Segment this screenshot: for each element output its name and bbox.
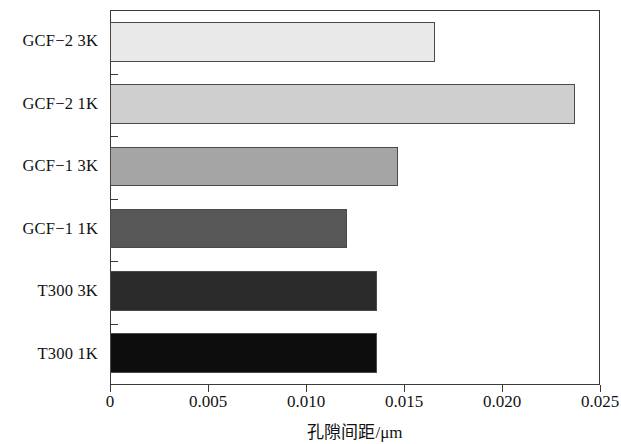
x-tick-mark <box>208 385 209 392</box>
bar-slot <box>111 135 599 197</box>
bar <box>110 22 435 62</box>
category-label: GCF−1 3K <box>0 135 105 198</box>
y-tick-mark <box>111 74 118 75</box>
bar-chart: GCF−2 3K GCF−2 1K GCF−1 3K GCF−1 1K T300… <box>0 0 621 444</box>
x-tick-mark <box>404 385 405 392</box>
y-tick-mark <box>111 199 118 200</box>
plot-area <box>110 10 600 385</box>
category-label: T300 1K <box>0 323 105 386</box>
x-tick-label: 0.020 <box>483 392 521 412</box>
category-axis-labels: GCF−2 3K GCF−2 1K GCF−1 3K GCF−1 1K T300… <box>0 10 105 385</box>
x-tick-label: 0.010 <box>287 392 325 412</box>
bar <box>110 84 575 124</box>
x-tick-mark <box>502 385 503 392</box>
x-tick-label: 0.015 <box>385 392 423 412</box>
y-tick-mark <box>111 261 118 262</box>
x-tick-labels: 00.0050.0100.0150.0200.025 <box>0 392 621 418</box>
y-tick-mark <box>111 136 118 137</box>
bars-layer <box>111 11 599 384</box>
bar-slot <box>111 73 599 135</box>
x-tick-mark <box>600 385 601 392</box>
bar <box>110 271 377 311</box>
x-tick-label: 0.025 <box>581 392 619 412</box>
category-label: GCF−1 1K <box>0 198 105 261</box>
category-label: GCF−2 3K <box>0 10 105 73</box>
x-tick-label: 0 <box>106 392 115 412</box>
x-tick-mark <box>306 385 307 392</box>
bar <box>110 147 398 187</box>
x-tick-label: 0.005 <box>189 392 227 412</box>
category-label: GCF−2 1K <box>0 73 105 136</box>
bar-slot <box>111 322 599 384</box>
x-tick-mark <box>110 385 111 392</box>
bar <box>110 209 347 249</box>
y-tick-mark <box>111 324 118 325</box>
bar-slot <box>111 260 599 322</box>
category-label: T300 3K <box>0 260 105 323</box>
x-axis-title: 孔隙间距/μm <box>110 418 600 443</box>
bar-slot <box>111 198 599 260</box>
bar-slot <box>111 11 599 73</box>
bar <box>110 333 377 373</box>
